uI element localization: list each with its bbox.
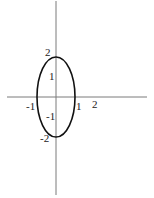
y-tick-label-1: 1 [49,70,55,82]
x-tick-label-2: 2 [92,98,98,110]
x-tick-label-neg1: -1 [26,100,35,112]
y-tick-label-2: 2 [45,46,51,58]
y-tick-label-neg2: -2 [40,132,49,144]
y-tick-label-neg1: -1 [46,110,55,122]
ellipse-graph: 2 1 -1 1 2 -1 -2 [0,0,154,198]
x-tick-label-1: 1 [76,100,82,112]
